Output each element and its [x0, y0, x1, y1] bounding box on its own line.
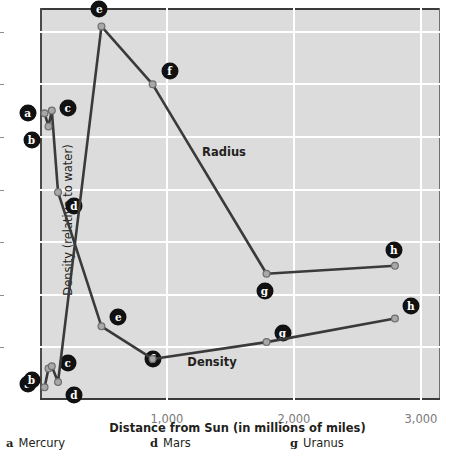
legend-label: Mercury	[18, 436, 65, 450]
series-line-density	[45, 111, 395, 359]
series-line-radius	[45, 26, 395, 387]
data-point-radius-e[interactable]	[98, 23, 105, 30]
data-point-density-d[interactable]	[55, 189, 62, 196]
data-point-radius-g[interactable]	[263, 270, 270, 277]
legend-key: a	[6, 436, 13, 450]
data-point-radius-a[interactable]	[41, 384, 48, 391]
legend-key: g	[290, 436, 298, 450]
legend-item-mercury: aMercury	[6, 436, 65, 450]
legend-key: d	[150, 436, 158, 450]
legend-item-uranus: gUranus	[290, 436, 344, 450]
data-point-radius-f[interactable]	[149, 81, 156, 88]
data-point-density-c[interactable]	[48, 107, 55, 114]
data-point-radius-h[interactable]	[392, 262, 399, 269]
data-point-density-b[interactable]	[45, 123, 52, 130]
series-lines	[0, 0, 475, 454]
x-axis-label: Distance from Sun (in millions of miles)	[0, 421, 475, 435]
data-point-density-f[interactable]	[149, 356, 156, 363]
legend: aMercurydMarsgUranus	[0, 436, 475, 454]
data-point-density-h[interactable]	[392, 315, 399, 322]
data-point-density-a[interactable]	[41, 110, 48, 117]
legend-label: Mars	[163, 436, 191, 450]
data-point-radius-d[interactable]	[55, 379, 62, 386]
chart-figure: Density (relative to water) Radius (in k…	[0, 0, 475, 454]
legend-label: Uranus	[303, 436, 344, 450]
data-point-density-e[interactable]	[98, 323, 105, 330]
legend-item-mars: dMars	[150, 436, 191, 450]
data-point-radius-c[interactable]	[48, 363, 55, 370]
data-point-density-g[interactable]	[263, 339, 270, 346]
